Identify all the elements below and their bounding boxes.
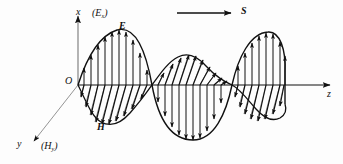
y-axis-line: [34, 85, 78, 141]
poynting-vector-label: S: [241, 6, 247, 16]
z-axis-label: z: [327, 89, 331, 99]
origin-label: O: [65, 76, 72, 86]
x-axis-field-label: (Ex): [92, 8, 108, 19]
y-field-open: (H: [41, 140, 52, 151]
H-field-group: [78, 55, 286, 124]
E-lobe1-arrows: [84, 30, 147, 85]
E-lobe3-arrows: [238, 33, 285, 85]
magnetic-field-label: H: [97, 122, 105, 132]
y-axis-field-label: (Hy): [41, 141, 58, 152]
electric-field-label: E: [119, 21, 126, 31]
x-field-close: ): [104, 7, 107, 18]
y-axis-label: y: [17, 139, 21, 149]
H-lobe3-arrows: [235, 85, 284, 121]
y-field-close: ): [54, 140, 57, 151]
H-lobe2-arrows: [158, 55, 227, 85]
H-wave-curve: [78, 55, 286, 124]
x-axis-label: x: [76, 7, 80, 17]
H-lobe2-hatch: [158, 56, 226, 85]
em-wave-figure: x (Ex) y (Hy) z O E H S: [0, 0, 343, 164]
